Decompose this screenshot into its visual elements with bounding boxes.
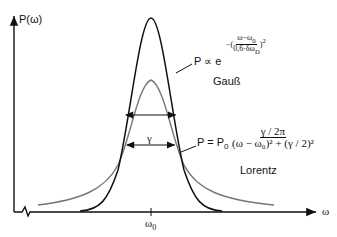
gauss-leader [176,64,192,73]
gamma-label: γ [147,133,152,144]
lorentz-leader [181,146,196,152]
omega0-label: ω0 [145,218,156,232]
lorentz-name: Lorentz [240,165,277,176]
line-shape-diagram [0,0,337,237]
gauss-formula: P ∝ e [194,56,221,67]
gauss-exponent: −(ω−ω00,6·δωD)2 [226,34,266,56]
x-axis-label: ω [322,206,329,217]
lorentz-fraction: γ / 2π(ω − ω₀)² + (γ / 2)² [232,126,314,149]
gauss-name: Gauß [213,76,241,87]
y-axis-label: P(ω) [19,14,42,25]
lorentz-formula: P = P0 [197,137,228,151]
x-axis [14,207,316,216]
